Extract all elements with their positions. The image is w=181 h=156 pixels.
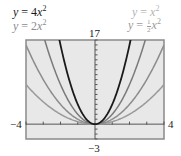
plot-area <box>0 0 181 156</box>
